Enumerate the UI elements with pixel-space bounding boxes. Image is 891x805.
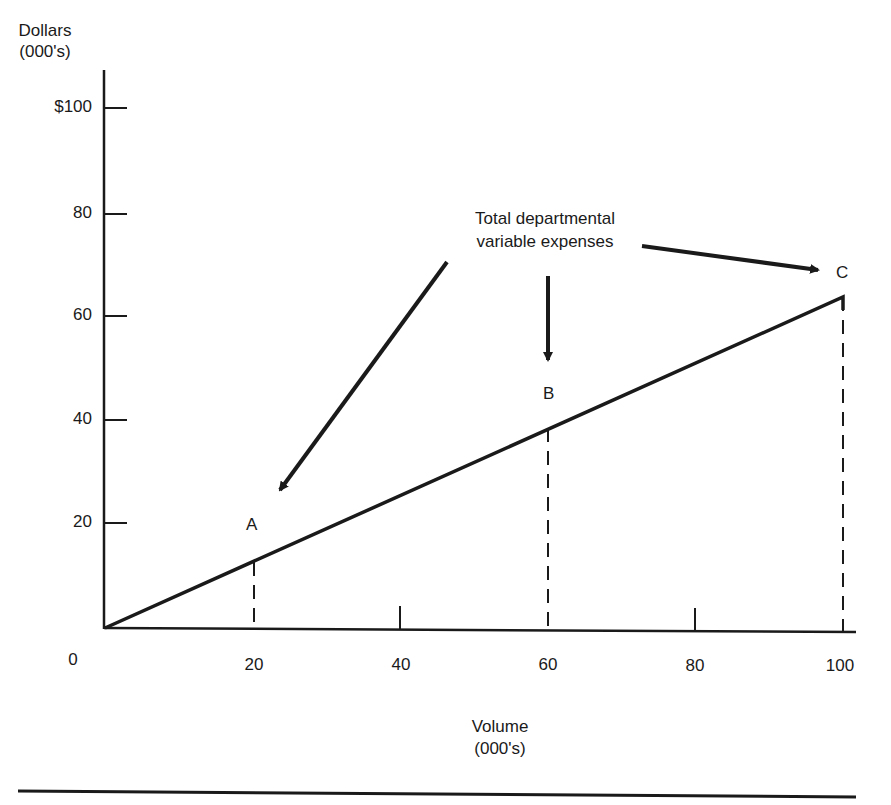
- chart-canvas: [0, 0, 891, 805]
- x-tick-label: 100: [815, 656, 865, 676]
- x-tick-label: 60: [523, 655, 573, 675]
- x-axis-title: Volume (000's): [448, 716, 552, 760]
- x-tick-label: 20: [229, 655, 279, 675]
- bottom-rule: [18, 791, 856, 797]
- y-tick-label: 40: [32, 409, 92, 429]
- annotation-label: Total departmental variable expenses: [440, 207, 650, 253]
- x-tick-label: 80: [670, 656, 720, 676]
- y-tick-label: $100: [32, 97, 92, 117]
- x-axis: [104, 628, 856, 632]
- point-label-b: B: [543, 384, 554, 404]
- y-ticks: [104, 108, 127, 523]
- x-tick-label: 40: [376, 655, 426, 675]
- x-tick-label: 0: [48, 650, 98, 670]
- expense-line: [105, 297, 843, 628]
- y-tick-label: 60: [32, 305, 92, 325]
- point-label-a: A: [246, 515, 257, 535]
- y-tick-label: 20: [32, 512, 92, 532]
- y-axis-title: Dollars (000's): [12, 20, 78, 62]
- point-label-c: C: [836, 263, 848, 283]
- y-tick-label: 80: [32, 203, 92, 223]
